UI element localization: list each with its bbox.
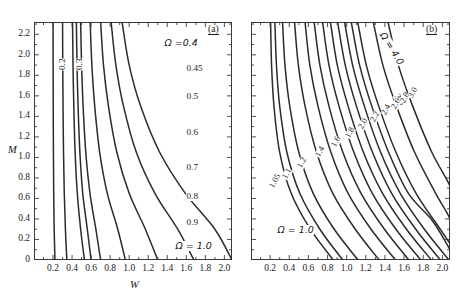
contour-a-0.7 bbox=[101, 22, 158, 260]
xtick-label-1.4: 1.4 bbox=[161, 264, 173, 274]
xtick-label-1.8: 1.8 bbox=[417, 264, 429, 274]
ytick-label-1.2: 1.2 bbox=[2, 132, 30, 142]
panel-b-tag-text: (b) bbox=[426, 24, 437, 35]
ytick-label-2.2: 2.2 bbox=[2, 30, 30, 40]
xtick-label-0.2: 0.2 bbox=[47, 264, 59, 274]
ytick-label-0.6: 0.6 bbox=[2, 194, 30, 204]
contour-label-a-1.0: Ω = 1.0 bbox=[175, 241, 212, 251]
ytick-label-1.8: 1.8 bbox=[2, 71, 30, 81]
ytick-label-1.4: 1.4 bbox=[2, 112, 30, 122]
ytick-label-1.6: 1.6 bbox=[2, 91, 30, 101]
ytick-label-0: 0 bbox=[2, 255, 30, 265]
xtick-label-0.4: 0.4 bbox=[66, 264, 78, 274]
xtick-label-2.0: 2.0 bbox=[218, 264, 230, 274]
panel-a-ylabel: M bbox=[8, 144, 17, 155]
contour-label-a-0.2: 0.2 bbox=[58, 58, 67, 70]
contour-a-0.9 bbox=[122, 22, 232, 260]
contour-label-a-0.6: 0.6 bbox=[186, 128, 198, 137]
contour-label-a-0.5: 0.5 bbox=[186, 92, 198, 101]
xtick-label-1.2: 1.2 bbox=[360, 264, 372, 274]
xtick-label-0.8: 0.8 bbox=[104, 264, 116, 274]
contour-label-a-0.7: 0.7 bbox=[186, 163, 198, 172]
contour-label-a-0.9: 0.9 bbox=[186, 218, 198, 227]
xtick-label-2.0: 2.0 bbox=[436, 264, 448, 274]
xtick-label-1.0: 1.0 bbox=[341, 264, 353, 274]
xtick-label-0.4: 0.4 bbox=[283, 264, 295, 274]
ytick-label-0.2: 0.2 bbox=[2, 235, 30, 245]
contour-label-a-0.3: 0.3 bbox=[75, 58, 84, 70]
x-axis-label: W bbox=[130, 279, 139, 290]
ytick-label-0.4: 0.4 bbox=[2, 214, 30, 224]
panel-a-tag-text: (a) bbox=[208, 24, 219, 35]
contour-label-a-0.45: 0.45 bbox=[186, 64, 203, 73]
contour-label-a-0.4: Ω =0.4 bbox=[164, 38, 198, 48]
panel-b-tag: (b) bbox=[426, 24, 437, 34]
contour-label-a-0.8: 0.8 bbox=[186, 192, 198, 201]
xtick-label-0.2: 0.2 bbox=[264, 264, 276, 274]
xtick-label-0.6: 0.6 bbox=[85, 264, 97, 274]
xtick-label-1.6: 1.6 bbox=[398, 264, 410, 274]
contour-label-b-1.0: Ω = 1.0 bbox=[277, 225, 314, 235]
ytick-label-0.8: 0.8 bbox=[2, 173, 30, 183]
contour-b-3.5 bbox=[373, 22, 450, 231]
contour-a-0.8 bbox=[111, 22, 194, 260]
panel-a-tag: (a) bbox=[208, 24, 219, 34]
omega-symbol-b-foot: Ω = 1.0 bbox=[278, 224, 314, 235]
xtick-label-0.8: 0.8 bbox=[322, 264, 334, 274]
ytick-label-2.0: 2.0 bbox=[2, 50, 30, 60]
contour-b-2.4 bbox=[338, 22, 441, 260]
xtick-label-0.6: 0.6 bbox=[302, 264, 314, 274]
xtick-label-1.6: 1.6 bbox=[180, 264, 192, 274]
xtick-label-1.2: 1.2 bbox=[142, 264, 154, 274]
omega-symbol-a-head: Ω =0.4 bbox=[165, 37, 198, 48]
figure-root: 00.20.40.60.81.01.21.41.61.82.02.2 0.20.… bbox=[0, 0, 463, 295]
xtick-label-1.0: 1.0 bbox=[123, 264, 135, 274]
xtick-label-1.4: 1.4 bbox=[379, 264, 391, 274]
omega-symbol-a-foot: Ω = 1.0 bbox=[176, 240, 212, 251]
contour-a-0.2 bbox=[53, 22, 55, 260]
xtick-label-1.8: 1.8 bbox=[199, 264, 211, 274]
